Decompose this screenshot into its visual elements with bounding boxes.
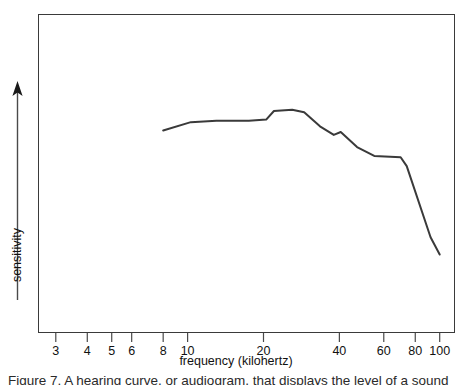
y-axis-title: sensitivity (10, 228, 24, 282)
x-axis-ticks (56, 333, 440, 342)
plot-frame (38, 14, 455, 333)
figure-container: 345681020406080100 sensitivity frequency… (0, 0, 472, 385)
figure-caption: Figure 7. A hearing curve, or audiogram,… (8, 373, 464, 385)
x-axis-title: frequency (kilohertz) (0, 354, 472, 368)
